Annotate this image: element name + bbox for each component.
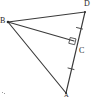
scan-artifact-speck <box>4 93 5 94</box>
vertex-dot-D <box>84 11 86 13</box>
vertex-label-D: D <box>84 0 90 8</box>
geometry-diagram-svg <box>0 0 100 100</box>
vertex-dot-B <box>7 21 10 24</box>
segment-BC <box>8 22 74 41</box>
segment-BA <box>8 22 66 93</box>
vertex-label-C: C <box>79 47 84 55</box>
segment-BD <box>8 12 85 22</box>
geometry-figure: D B C A <box>0 0 100 100</box>
scan-artifact-speck <box>2 92 3 93</box>
vertex-label-B: B <box>0 17 5 25</box>
vertex-label-A: A <box>64 91 69 99</box>
